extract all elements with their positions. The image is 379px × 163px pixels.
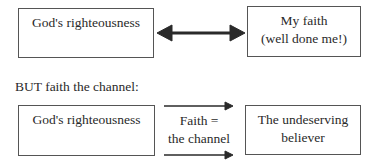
label-line-1: Faith = — [163, 112, 235, 130]
undeserving-believer-box: The undeserving believer — [245, 105, 361, 155]
gods-righteousness-box-bottom: God's righteousness — [18, 105, 155, 156]
box-text-line-1: The undeserving — [246, 111, 360, 129]
arrow-right-bottom-icon — [164, 151, 233, 159]
faith-channel-label: Faith = the channel — [163, 112, 235, 148]
box-text: God's righteousness — [19, 111, 154, 129]
label-line-2: the channel — [163, 130, 235, 148]
gods-righteousness-box-top: God's righteousness — [18, 8, 154, 58]
box-text-line-2: believer — [246, 129, 360, 147]
box-text-line-2: (well done me!) — [248, 30, 360, 48]
double-arrow-icon — [157, 25, 245, 41]
box-text-line-1: My faith — [248, 12, 360, 30]
my-faith-box: My faith (well done me!) — [247, 6, 361, 57]
box-text: God's righteousness — [19, 14, 153, 32]
caption: BUT faith the channel: — [15, 78, 139, 96]
arrow-right-top-icon — [164, 102, 233, 110]
